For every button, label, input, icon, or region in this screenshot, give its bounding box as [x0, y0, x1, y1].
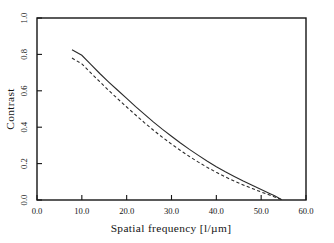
x-tick-label: 40.0: [209, 206, 224, 216]
x-tick-label: 20.0: [119, 206, 134, 216]
x-tick-label: 10.0: [74, 206, 89, 216]
y-tick-label: 0.2: [19, 158, 29, 169]
x-tick-label: 0.0: [32, 206, 43, 216]
y-tick-label: 0.8: [19, 49, 29, 60]
x-tick-label: 30.0: [164, 206, 179, 216]
y-axis-title: Contrast: [4, 88, 16, 130]
x-axis-title: Spatial frequency [l/µm]: [111, 222, 232, 234]
x-tick-label: 60.0: [298, 206, 313, 216]
contrast-vs-spatial-frequency-plot: 0.010.020.030.040.050.060.0 0.00.20.40.6…: [0, 0, 334, 243]
x-tick-label: 50.0: [254, 206, 269, 216]
y-tick-label: 1.0: [19, 13, 29, 24]
y-tick-label: 0.0: [19, 195, 29, 206]
y-tick-label: 0.4: [19, 121, 29, 132]
y-tick-label: 0.6: [19, 85, 29, 96]
chart-figure: 0.010.020.030.040.050.060.0 0.00.20.40.6…: [0, 0, 334, 243]
